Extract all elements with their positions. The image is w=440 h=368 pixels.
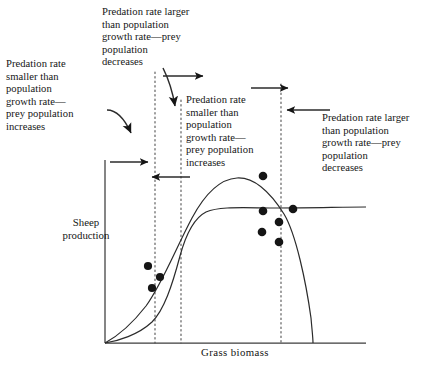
annotation-right: Predation rate larger than population gr…	[322, 112, 438, 175]
annotation-top-middle: Predation rate larger than population gr…	[102, 6, 214, 69]
data-point	[275, 218, 284, 227]
saturating-curve	[105, 207, 366, 343]
data-point	[148, 284, 156, 292]
data-point	[259, 172, 268, 181]
data-point	[258, 228, 267, 237]
curved-arrow-top-block	[163, 68, 175, 106]
x-axis-label: Grass biomass	[160, 346, 310, 359]
data-point	[289, 205, 298, 214]
y-axis-label: Sheep production	[54, 216, 118, 241]
data-point	[259, 207, 268, 216]
figure-canvas: Predation rate smaller than population g…	[0, 0, 440, 368]
axis-group	[105, 160, 366, 343]
data-point	[144, 262, 152, 270]
hump-curve	[105, 178, 313, 343]
curved-arrow-left-block	[107, 110, 131, 133]
predator-prey-diagram	[0, 0, 440, 368]
annotation-inner: Predation rate smaller than population g…	[186, 94, 278, 170]
scatter-points	[144, 172, 297, 292]
annotation-left: Predation rate smaller than population g…	[6, 58, 110, 134]
data-point	[156, 273, 164, 281]
data-point	[275, 238, 284, 247]
